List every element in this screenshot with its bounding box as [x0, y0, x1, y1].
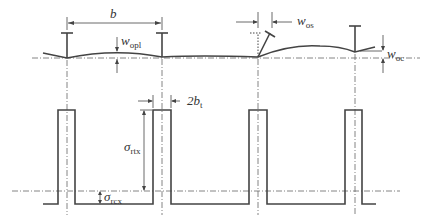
2bt-arrowhead-right [171, 99, 176, 103]
2bt-label: 2bt [187, 93, 203, 110]
w-os-label: wos [297, 13, 314, 30]
w-opl-label: wopl [121, 33, 142, 50]
sigma-rtx-label: σrtx [124, 139, 141, 156]
stiffener-3-tilted-flange [265, 31, 275, 37]
w-opl-arrowhead-bottom [115, 59, 119, 64]
2bt-arrowhead-left [148, 99, 153, 103]
sigma-rcx-label: σrcx [104, 189, 122, 206]
w-oc-arrowhead-bottom [381, 58, 385, 63]
deformed-plate-line [43, 46, 375, 58]
w-os-arrowhead-left [253, 20, 258, 24]
residual-stress-section: 2bt σrtx σrcx [12, 93, 400, 206]
w-os-arrowhead-right [272, 20, 277, 24]
b-label: b [110, 6, 117, 21]
residual-stress-profile [43, 110, 376, 204]
w-oc-arrowhead-top [381, 46, 385, 51]
plate-deformation-section: b wopl wos woc [32, 6, 420, 73]
stiffened-plate-diagram: b wopl wos woc [0, 0, 421, 221]
w-oc-label: woc [387, 46, 404, 63]
w-opl-arrowhead-top [115, 47, 119, 52]
